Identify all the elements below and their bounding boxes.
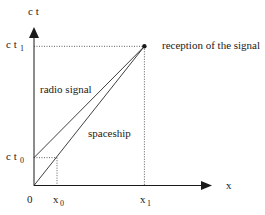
radio-signal-label: radio signal [40, 83, 92, 95]
spacetime-diagram: c t x 0 c t 1 c t 0 x 0 x 1 radio signal… [0, 0, 265, 215]
ct0-label: c t 0 [6, 150, 24, 165]
x1-label: x 1 [140, 193, 151, 208]
x1-label-base: x [140, 193, 146, 205]
radio-signal-worldline [34, 46, 144, 157]
spaceship-worldline [34, 46, 144, 185]
ct1-label-base: c t [6, 38, 17, 50]
ct1-label: c t 1 [6, 38, 24, 53]
x0-label: x 0 [53, 193, 64, 208]
ct-axis-arrowhead-icon [29, 27, 39, 38]
x1-label-sub: 1 [147, 199, 151, 208]
x0-label-base: x [53, 193, 59, 205]
x0-label-sub: 0 [60, 199, 64, 208]
reception-event-label: reception of the signal [162, 39, 260, 51]
x-axis-label: x [226, 179, 232, 191]
ct1-label-sub: 1 [20, 44, 24, 53]
origin-label: 0 [27, 193, 33, 205]
reception-event-point [142, 44, 146, 48]
ct-axis-label: c t [28, 5, 39, 17]
x-axis-arrowhead-icon [201, 181, 212, 190]
ct0-label-base: c t [6, 150, 17, 162]
spaceship-label: spaceship [88, 127, 131, 139]
ct0-label-sub: 0 [20, 156, 24, 165]
